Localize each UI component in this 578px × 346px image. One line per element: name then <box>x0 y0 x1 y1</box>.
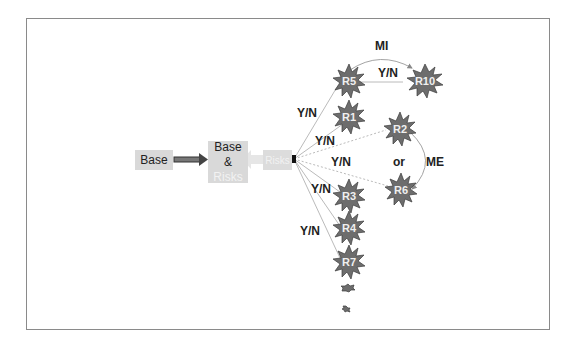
yn-label-r1: Y/N <box>315 134 335 148</box>
risk-label-r3: R3 <box>334 190 364 202</box>
or-label: or <box>393 155 405 169</box>
base-and-risks-line2: & <box>224 155 232 170</box>
risk-label-r10: R10 <box>410 75 440 87</box>
risk-label-r5: R5 <box>334 75 364 87</box>
base-and-risks-line1: Base <box>214 140 241 155</box>
risk-label-r6: R6 <box>386 184 416 196</box>
me-label: ME <box>426 155 444 169</box>
risk-label-r4: R4 <box>334 222 364 234</box>
yn-label-r4-r7: Y/N <box>300 224 320 238</box>
risk-label-r1: R1 <box>334 111 364 123</box>
base-and-risks-line3: Risks <box>213 170 242 185</box>
base-and-risks-box: Base & Risks <box>208 141 248 183</box>
base-box: Base <box>135 150 173 170</box>
yn-label-r2-r6: Y/N <box>331 155 351 169</box>
connector-layer <box>0 0 578 346</box>
mi-label: MI <box>375 39 388 53</box>
yn-label-r5: Y/N <box>297 106 317 120</box>
risk-label-r7: R7 <box>334 256 364 268</box>
risk-burst-small-2 <box>342 306 350 312</box>
yn-label-r3: Y/N <box>311 182 331 196</box>
risks-box: Risks <box>263 150 292 170</box>
me-arrow <box>410 132 426 189</box>
risk-label-r2: R2 <box>385 123 415 135</box>
base-label: Base <box>140 153 167 168</box>
base-to-combined-arrow <box>174 153 208 166</box>
risk-burst-small-1 <box>341 284 355 292</box>
risks-label: Risks <box>265 153 289 168</box>
yn-label-r5-r10: Y/N <box>378 66 398 80</box>
